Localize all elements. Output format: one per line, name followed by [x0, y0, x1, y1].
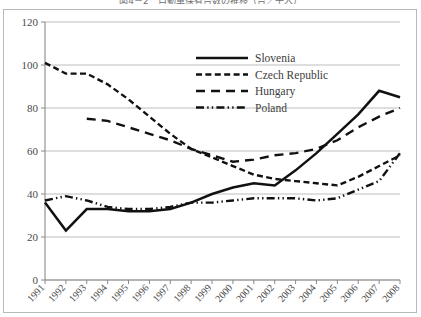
legend: SloveniaCzech RepublicHungaryPoland [196, 52, 328, 114]
x-tick-label: 1996 [129, 282, 151, 304]
x-tick-label: 2003 [276, 282, 298, 304]
gridlines-group [45, 22, 400, 280]
data-series-group [45, 63, 400, 231]
y-tick-label: 60 [27, 145, 39, 157]
x-tick-label: 2004 [296, 282, 318, 304]
x-tick-label: 1993 [67, 282, 89, 304]
y-tick-label: 80 [27, 102, 39, 114]
y-tick-label: 40 [27, 188, 39, 200]
x-tick-label: 2006 [338, 282, 360, 304]
x-tick-label: 1997 [150, 282, 172, 304]
x-tick-label: 2005 [317, 282, 339, 304]
x-tick-label: 1998 [171, 282, 193, 304]
legend-label-hungary: Hungary [255, 85, 295, 98]
y-tick-label: 20 [27, 231, 39, 243]
series-line-hungary [87, 108, 400, 162]
x-tick-label: 1999 [192, 282, 214, 304]
axis-group [41, 22, 400, 284]
x-tick-label: 2007 [359, 282, 381, 304]
x-tick-label: 2000 [213, 282, 235, 304]
y-tick-label: 120 [22, 16, 39, 28]
y-tick-labels: 020406080100120 [22, 16, 39, 286]
x-tick-label: 2008 [380, 282, 402, 304]
legend-label-slovenia: Slovenia [255, 52, 295, 64]
line-chart-plot: 020406080100120 199119921993199419951996… [0, 0, 421, 317]
x-tick-label: 2001 [234, 282, 256, 304]
chart-root: 図4－2 自動車保有台数の推移（台／千人） 020406080100120 19… [0, 0, 421, 317]
x-tick-label: 1995 [108, 282, 130, 304]
y-tick-label: 100 [22, 59, 39, 71]
x-tick-labels: 1991199219931994199519961997199819992000… [25, 282, 402, 304]
x-tick-label: 1991 [25, 282, 47, 304]
x-tick-label: 2002 [255, 282, 277, 304]
legend-label-czech-republic: Czech Republic [255, 69, 328, 82]
x-tick-label: 1994 [88, 282, 110, 304]
legend-label-poland: Poland [255, 102, 287, 114]
x-tick-label: 1992 [46, 282, 68, 304]
